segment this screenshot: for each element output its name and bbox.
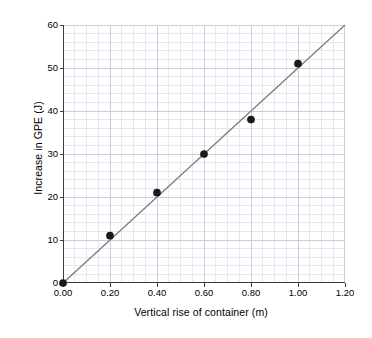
y-tick-label: 40 — [18, 105, 58, 116]
data-point-marker — [106, 232, 114, 240]
y-tick-label: 20 — [18, 191, 58, 202]
y-axis-tick-labels: 0102030405060 — [14, 25, 58, 283]
x-tick-label: 0.40 — [135, 287, 179, 298]
data-series-layer — [63, 25, 345, 283]
y-tick-label: 10 — [18, 234, 58, 245]
y-tick-label: 60 — [18, 19, 58, 30]
y-tick-label: 30 — [18, 148, 58, 159]
data-point-marker — [294, 60, 302, 68]
data-point-marker — [200, 150, 208, 158]
x-tick-label: 0.20 — [88, 287, 132, 298]
x-axis-title: Vertical rise of container (m) — [56, 306, 346, 318]
y-tick-label: 50 — [18, 62, 58, 73]
data-point-marker — [59, 279, 67, 287]
x-tick-label: 0.80 — [229, 287, 273, 298]
plot-area — [63, 25, 345, 283]
x-tick-label: 1.20 — [323, 287, 367, 298]
x-axis-tick-labels: 0.000.200.400.600.801.001.20 — [63, 287, 345, 303]
x-tick-label: 0.60 — [182, 287, 226, 298]
data-point-marker — [153, 189, 161, 197]
x-tick-label: 1.00 — [276, 287, 320, 298]
data-point-marker — [247, 116, 255, 124]
x-tick-label: 0.00 — [41, 287, 85, 298]
gpe-vs-rise-scatter-chart: Increase in GPE (J) 0102030405060 0.000.… — [0, 0, 372, 338]
